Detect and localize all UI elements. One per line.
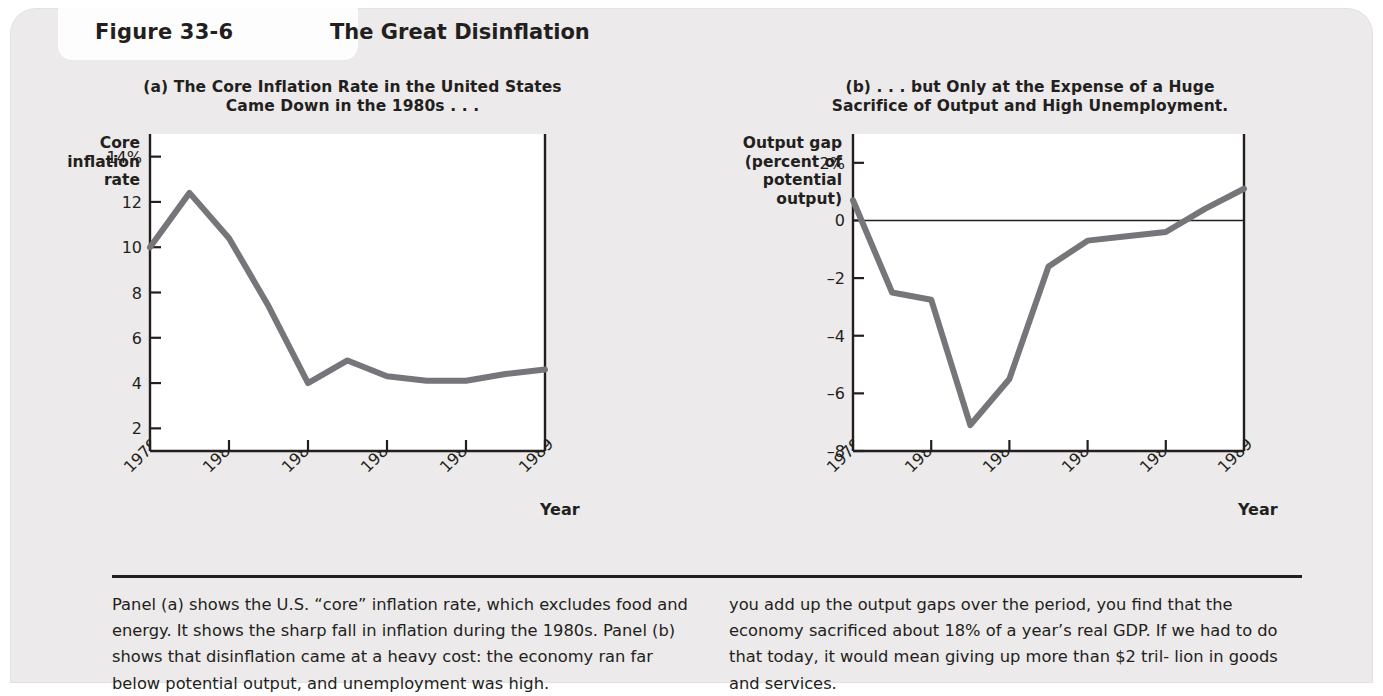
panel-b-chart-svg bbox=[690, 130, 1250, 530]
caption-column-left: Panel (a) shows the U.S. “core” inflatio… bbox=[112, 592, 689, 696]
panel-a-x-axis-label: Year bbox=[540, 500, 580, 519]
panel-b: (b) . . . but Only at the Expense of a H… bbox=[690, 78, 1370, 530]
figure-number: 33-6 bbox=[180, 20, 233, 44]
panel-a: (a) The Core Inflation Rate in the Unite… bbox=[20, 78, 685, 530]
caption-text-left: Panel (a) shows the U.S. “core” inflatio… bbox=[112, 592, 689, 696]
panel-b-subtitle-line1: (b) . . . but Only at the Expense of a H… bbox=[750, 78, 1310, 97]
panel-a-chart-svg bbox=[20, 130, 550, 530]
caption-divider bbox=[112, 575, 1302, 578]
figure-title: The Great Disinflation bbox=[330, 20, 590, 44]
figure-caption: Panel (a) shows the U.S. “core” inflatio… bbox=[112, 592, 1307, 696]
panel-a-subtitle-line2: Came Down in the 1980s . . . bbox=[93, 97, 613, 116]
panel-b-subtitle: (b) . . . but Only at the Expense of a H… bbox=[750, 78, 1310, 116]
panel-b-subtitle-line2: Sacrifice of Output and High Unemploymen… bbox=[750, 97, 1310, 116]
panel-a-subtitle-line1: (a) The Core Inflation Rate in the Unite… bbox=[93, 78, 613, 97]
panel-b-plot-area: Output gap (percent of potential output)… bbox=[690, 130, 1370, 530]
figure-number-label: Figure 33-6 bbox=[95, 20, 233, 44]
panel-a-subtitle: (a) The Core Inflation Rate in the Unite… bbox=[93, 78, 613, 116]
caption-column-right: you add up the output gaps over the peri… bbox=[729, 592, 1306, 696]
panel-b-x-axis-label: Year bbox=[1238, 500, 1278, 519]
figure-word: Figure bbox=[95, 20, 172, 44]
panel-a-plot-area: Core inflation rate 14%12108642 19791981… bbox=[20, 130, 685, 530]
caption-text-right: you add up the output gaps over the peri… bbox=[729, 592, 1306, 696]
